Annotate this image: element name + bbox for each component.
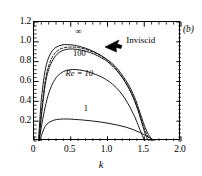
curve-label-infinity: ∞: [76, 27, 82, 36]
curve-label-re-10: Re = 10: [66, 69, 93, 78]
curve-label-re-100: 100: [73, 49, 86, 58]
inviscid-arrow: [0, 0, 202, 176]
figure-panel-b: 1.2 1.0 0.8 0.6 0.4 0.2 0 0.5 1.0 1.5 2.…: [0, 0, 202, 176]
curve-label-inviscid: Inviscid: [126, 36, 155, 45]
curve-label-re-1: 1: [84, 104, 88, 113]
